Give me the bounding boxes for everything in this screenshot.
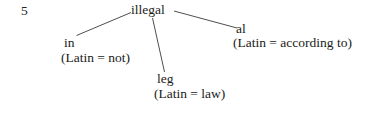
gloss-suffix: (Latin = according to) [233, 36, 352, 50]
branch-line-to-al [174, 11, 237, 28]
branch-line-to-in [77, 13, 132, 36]
etymology-tree-figure: 5 illegal in (Latin = not) leg (Latin = … [0, 0, 388, 113]
item-number: 5 [21, 4, 28, 18]
branch-line-to-leg [153, 18, 165, 72]
tree-root-word: illegal [131, 3, 165, 17]
gloss-stem: (Latin = law) [154, 87, 225, 101]
morpheme-stem: leg [157, 72, 174, 86]
morpheme-prefix: in [64, 36, 75, 50]
morpheme-suffix: al [236, 22, 246, 36]
gloss-prefix: (Latin = not) [61, 51, 130, 65]
